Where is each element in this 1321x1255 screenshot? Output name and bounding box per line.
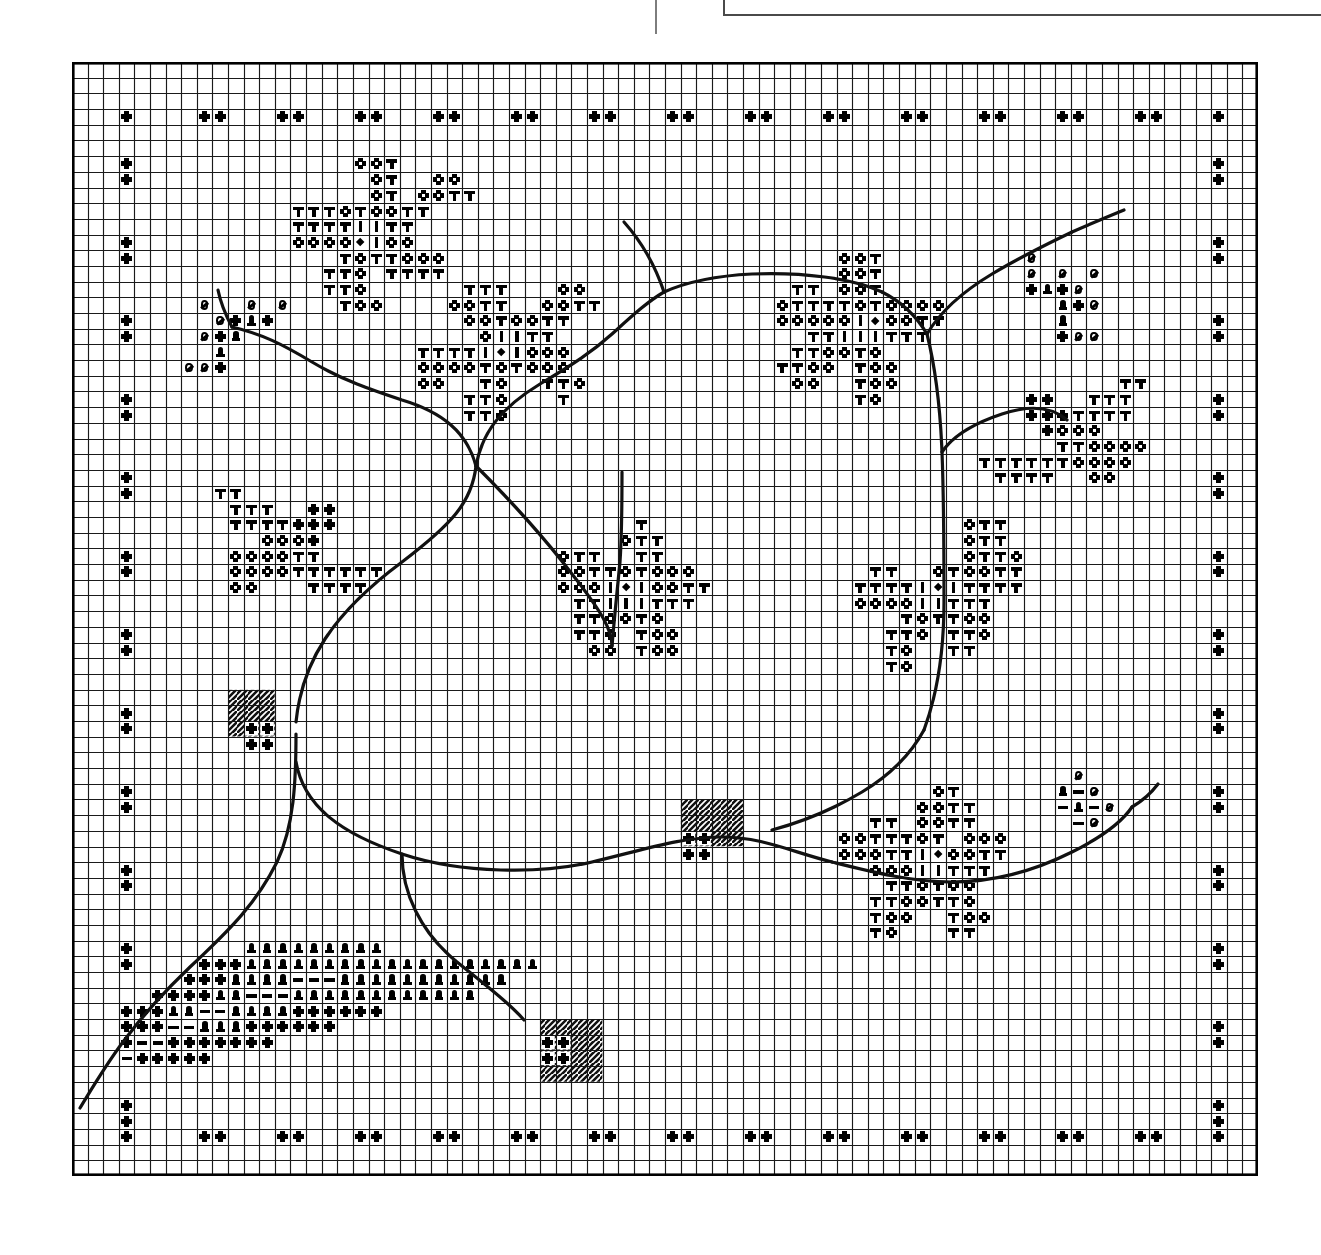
chart-grid xyxy=(72,62,1258,1176)
chart-page xyxy=(0,0,1321,1255)
vertical-rule-fragment xyxy=(655,0,657,34)
pattern-plate xyxy=(72,62,1258,1176)
box-corner-bottom-fragment xyxy=(723,14,1321,16)
